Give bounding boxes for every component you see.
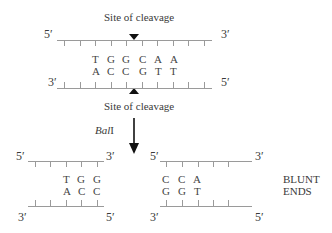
tick — [228, 161, 229, 167]
base: G — [93, 174, 101, 185]
tick — [66, 161, 67, 167]
tick — [173, 82, 174, 88]
tick — [166, 161, 167, 167]
lower-strand-3-prime: 3′ — [48, 76, 57, 88]
left-fragment-lower-3-prime: 3′ — [18, 211, 27, 223]
base: C — [93, 186, 100, 197]
enzyme-label: BalI — [95, 125, 114, 136]
left-fragment-lower-5-prime: 5′ — [106, 211, 115, 223]
base: A — [170, 54, 178, 65]
right-fragment-upper-backbone — [160, 161, 252, 162]
blunt-ends-label-line2: ENDS — [283, 186, 312, 197]
tick — [64, 40, 65, 46]
left-fragment-upper-5-prime: 5′ — [16, 150, 25, 162]
tick — [81, 161, 82, 167]
tick — [204, 40, 205, 46]
tick — [142, 82, 143, 88]
base: A — [193, 174, 201, 185]
base: C — [78, 186, 85, 197]
base: G — [107, 54, 115, 65]
tick — [126, 40, 127, 46]
base: T — [92, 54, 99, 65]
tick — [97, 161, 98, 167]
tick — [35, 161, 36, 167]
base: G — [122, 54, 130, 65]
tick — [50, 161, 51, 167]
base: C — [107, 66, 114, 77]
left-fragment-upper-3-prime: 3′ — [106, 150, 115, 162]
base: C — [122, 66, 129, 77]
blunt-ends-label-line1: BLUNT — [283, 174, 320, 185]
right-fragment-lower-3-prime: 3′ — [150, 211, 159, 223]
tick — [80, 82, 81, 88]
base: A — [92, 66, 100, 77]
tick — [198, 161, 199, 167]
tick — [111, 40, 112, 46]
base: T — [155, 66, 162, 77]
left-fragment-lower-backbone — [28, 206, 104, 207]
enzyme-name: Bal — [95, 124, 110, 136]
right-fragment-lower-backbone — [160, 206, 252, 207]
base: C — [162, 174, 169, 185]
tick — [80, 40, 81, 46]
tick — [157, 82, 158, 88]
upper-strand-5-prime: 5′ — [44, 28, 53, 40]
base: T — [63, 174, 70, 185]
tick — [204, 82, 205, 88]
tick — [182, 161, 183, 167]
tick — [111, 82, 112, 88]
right-fragment-upper-5-prime: 5′ — [150, 150, 159, 162]
lower-strand-backbone — [57, 88, 212, 89]
base: A — [154, 54, 162, 65]
base: G — [139, 66, 147, 77]
tick — [95, 82, 96, 88]
tick — [173, 40, 174, 46]
arrow-down-icon — [129, 143, 139, 154]
tick — [157, 40, 158, 46]
site-of-cleavage-label-bottom: Site of cleavage — [104, 101, 174, 112]
right-fragment-lower-5-prime: 5′ — [255, 211, 264, 223]
base: A — [63, 186, 71, 197]
right-fragment-upper-3-prime: 3′ — [255, 150, 264, 162]
upper-strand-3-prime: 3′ — [221, 28, 230, 40]
tick — [213, 161, 214, 167]
base: C — [178, 174, 185, 185]
tick — [126, 82, 127, 88]
tick — [188, 40, 189, 46]
base: C — [139, 54, 146, 65]
tick — [188, 82, 189, 88]
tick — [142, 40, 143, 46]
enzyme-suffix: I — [110, 124, 114, 136]
tick — [95, 40, 96, 46]
base: T — [194, 186, 201, 197]
tick — [64, 82, 65, 88]
base: T — [170, 66, 177, 77]
base: G — [162, 186, 170, 197]
base: G — [77, 174, 85, 185]
lower-strand-5-prime: 5′ — [221, 76, 230, 88]
base: G — [178, 186, 186, 197]
